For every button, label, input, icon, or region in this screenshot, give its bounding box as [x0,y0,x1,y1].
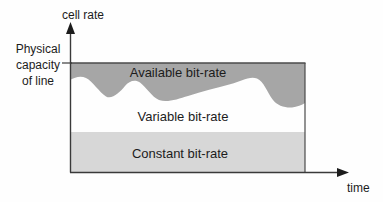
constant-bit-rate-region [71,132,306,173]
diagram-plot-area [0,0,383,202]
available-bit-rate-region [70,63,305,108]
y-axis-arrowhead-icon [66,22,75,34]
x-axis-arrowhead-icon [337,168,349,177]
bit-rate-diagram: cell rate Physical capacity of line Avai… [0,0,383,202]
